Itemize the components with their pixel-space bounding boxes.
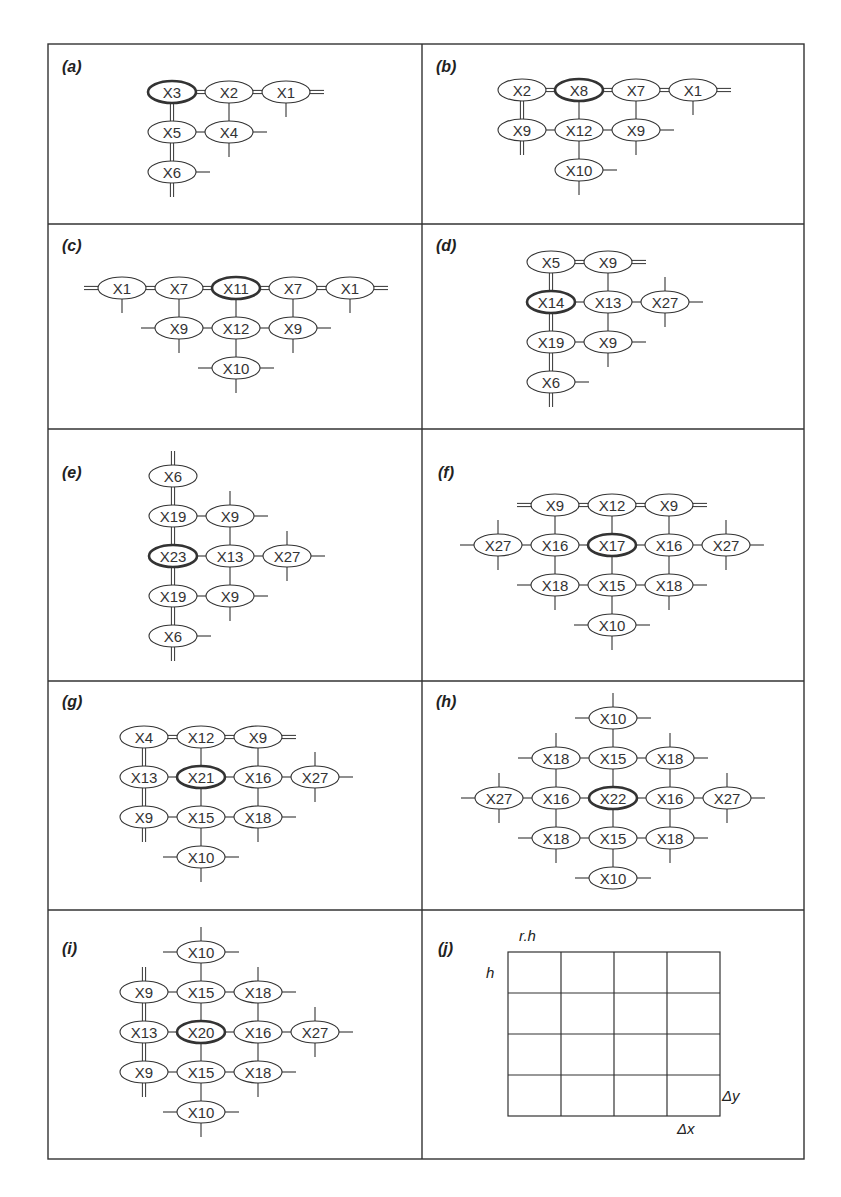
node-x27: X27	[291, 766, 339, 788]
node-x18: X18	[234, 1061, 282, 1083]
node-label: X16	[543, 790, 570, 807]
node-label: X1	[341, 280, 359, 297]
node-label: X10	[600, 710, 627, 727]
node-x18: X18	[234, 806, 282, 828]
node-x15: X15	[177, 806, 225, 828]
panel-label-e: (e)	[62, 464, 82, 482]
node-x27: X27	[291, 1021, 339, 1043]
node-x9: X9	[155, 317, 203, 339]
panel-label-d: (d)	[436, 237, 456, 255]
node-label: X27	[652, 294, 679, 311]
node-x9: X9	[206, 585, 254, 607]
node-x13: X13	[120, 766, 168, 788]
network-panel-h: X10X18X15X18X27X16X22X16X27X18X15X18X10	[461, 693, 765, 889]
node-x9: X9	[234, 726, 282, 748]
node-x27: X27	[475, 787, 523, 809]
node-label: X9	[546, 497, 564, 514]
node-label: X15	[188, 984, 215, 1001]
node-label: X18	[657, 750, 684, 767]
node-x18: X18	[646, 827, 694, 849]
node-label: X12	[188, 729, 215, 746]
node-x27: X27	[263, 545, 311, 567]
grid-label-dx: Δx	[677, 1120, 695, 1137]
node-x9: X9	[120, 1061, 168, 1083]
node-x8-target: X8	[555, 79, 603, 101]
node-x7: X7	[155, 277, 203, 299]
node-x15: X15	[589, 827, 637, 849]
node-label: X27	[302, 1024, 329, 1041]
node-x2: X2	[498, 79, 546, 101]
node-label: X19	[538, 334, 565, 351]
node-label: X9	[599, 334, 617, 351]
node-x2: X2	[205, 81, 253, 103]
grid-label-dy: Δy	[722, 1087, 740, 1104]
node-label: X9	[221, 588, 239, 605]
node-label: X10	[600, 870, 627, 887]
node-label: X17	[599, 537, 626, 554]
node-label: X18	[542, 577, 569, 594]
node-x14-target: X14	[527, 291, 575, 313]
node-x18: X18	[234, 981, 282, 1003]
node-x16: X16	[234, 766, 282, 788]
node-x12: X12	[212, 317, 260, 339]
node-label: X10	[188, 849, 215, 866]
node-x15: X15	[177, 981, 225, 1003]
node-x18: X18	[532, 747, 580, 769]
node-x5: X5	[527, 251, 575, 273]
node-x9: X9	[498, 119, 546, 141]
node-label: X7	[284, 280, 302, 297]
node-label: X12	[566, 122, 593, 139]
node-x27: X27	[703, 787, 751, 809]
panel-label-c: (c)	[62, 237, 82, 255]
node-label: X15	[188, 809, 215, 826]
node-x15: X15	[589, 747, 637, 769]
node-x11-target: X11	[212, 277, 260, 299]
node-x21-target: X21	[177, 766, 225, 788]
node-x9: X9	[531, 494, 579, 516]
node-x10: X10	[177, 941, 225, 963]
node-x12: X12	[588, 494, 636, 516]
node-label: X27	[302, 769, 329, 786]
node-x9: X9	[612, 119, 660, 141]
network-panel-a: X3X2X1X5X4X6	[148, 81, 324, 197]
node-label: X6	[163, 164, 181, 181]
node-label: X13	[131, 769, 158, 786]
node-x10: X10	[555, 159, 603, 181]
node-label: X10	[188, 1104, 215, 1121]
node-label: X9	[599, 254, 617, 271]
network-panel-d: X5X9X14X13X27X19X9X6	[527, 251, 703, 407]
node-x6: X6	[149, 465, 197, 487]
node-label: X4	[220, 124, 238, 141]
node-label: X12	[599, 497, 626, 514]
node-label: X7	[627, 82, 645, 99]
panel-label-h: (h)	[436, 693, 456, 711]
node-label: X27	[485, 537, 512, 554]
node-x18: X18	[532, 827, 580, 849]
node-label: X10	[599, 617, 626, 634]
network-panel-i: X10X9X15X18X13X20X16X27X9X15X18X10	[120, 927, 353, 1137]
node-x4: X4	[205, 121, 253, 143]
node-x19: X19	[149, 505, 197, 527]
node-label: X1	[277, 84, 295, 101]
node-x27: X27	[641, 291, 689, 313]
node-x6: X6	[148, 161, 196, 183]
node-x5: X5	[148, 121, 196, 143]
node-label: X1	[684, 82, 702, 99]
node-label: X16	[245, 1024, 272, 1041]
node-label: X16	[657, 790, 684, 807]
discretization-grid	[508, 952, 720, 1116]
node-x19: X19	[527, 331, 575, 353]
node-label: X16	[245, 769, 272, 786]
node-x12: X12	[177, 726, 225, 748]
node-x19: X19	[149, 585, 197, 607]
node-x6: X6	[527, 371, 575, 393]
node-label: X18	[245, 984, 272, 1001]
network-panel-e: X6X19X9X23X13X27X19X9X6	[149, 451, 325, 661]
node-label: X15	[188, 1064, 215, 1081]
node-x23-target: X23	[149, 545, 197, 567]
node-label: X27	[274, 548, 301, 565]
node-label: X16	[542, 537, 569, 554]
network-panel-g: X4X12X9X13X21X16X27X9X15X18X10	[120, 726, 353, 882]
node-x18: X18	[646, 747, 694, 769]
node-label: X22	[600, 790, 627, 807]
